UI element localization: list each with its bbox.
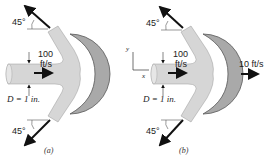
angle-bottom-b: 45° <box>146 126 160 136</box>
figure-a: 45° 45° 100 ft/s D = 1 in. (a) <box>6 6 110 155</box>
figure-b: y x 45° 45° 100 ft/s 10 ft/s D = 1 in. (… <box>125 7 264 155</box>
velocity-value-b: 100 <box>173 49 188 59</box>
axis-y-label: y <box>125 45 130 53</box>
velocity-unit-a: ft/s <box>40 59 53 69</box>
angle-top-b: 45° <box>146 18 160 28</box>
velocity-value-a: 100 <box>38 49 53 59</box>
caption-a: (a) <box>44 146 54 155</box>
diameter-label-a: D = 1 in. <box>6 94 40 104</box>
velocity-unit-b: ft/s <box>175 59 188 69</box>
vane-velocity-label: 10 ft/s <box>239 59 264 69</box>
diagram-canvas: 45° 45° 100 ft/s D = 1 in. (a) y x 45° <box>0 0 269 157</box>
diameter-label-b: D = 1 in. <box>142 94 176 104</box>
axis-x-label: x <box>141 72 146 80</box>
angle-bottom-a: 45° <box>12 126 26 136</box>
angle-top-a: 45° <box>12 17 26 27</box>
caption-b: (b) <box>179 146 189 155</box>
